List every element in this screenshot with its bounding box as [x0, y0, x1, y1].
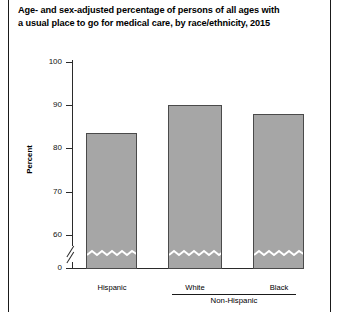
bar-break-zigzag-hispanic: [87, 249, 136, 258]
y-tick-mark-100: [66, 62, 72, 63]
y-tick-label-90: 90: [32, 101, 62, 109]
y-tick-label-60: 60: [32, 231, 62, 239]
y-tick-label-80: 80: [32, 144, 62, 152]
y-tick-label-100: 100: [32, 58, 62, 66]
bar-hispanic: [86, 133, 137, 269]
bar-break-zigzag-white: [169, 249, 221, 258]
y-tick-label-70: 70: [32, 188, 62, 196]
bar-white: [168, 105, 222, 269]
y-tick-mark-70: [66, 192, 72, 193]
bar-break-zigzag-black: [254, 249, 303, 258]
x-tick-label-black: Black: [248, 283, 310, 292]
chart-plot-area: Percent 100 90 80 70 60 0: [0, 0, 345, 312]
y-axis-break-marker: [62, 243, 82, 265]
y-tick-mark-90: [66, 105, 72, 106]
x-tick-label-white: White: [164, 283, 226, 292]
y-tick-mark-60: [66, 235, 72, 236]
y-tick-label-0: 0: [32, 264, 62, 272]
group-label-non-hispanic: Non-Hispanic: [172, 296, 296, 305]
y-axis-line: [72, 60, 73, 269]
y-tick-mark-0: [66, 268, 72, 269]
x-tick-label-hispanic: Hispanic: [81, 283, 143, 292]
group-bracket-non-hispanic: [172, 294, 296, 295]
y-tick-mark-80: [66, 148, 72, 149]
bar-black: [253, 114, 304, 269]
y-axis-title: Percent: [25, 130, 34, 190]
